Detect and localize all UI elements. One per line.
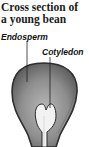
bean-cross-section-diagram	[0, 0, 89, 147]
